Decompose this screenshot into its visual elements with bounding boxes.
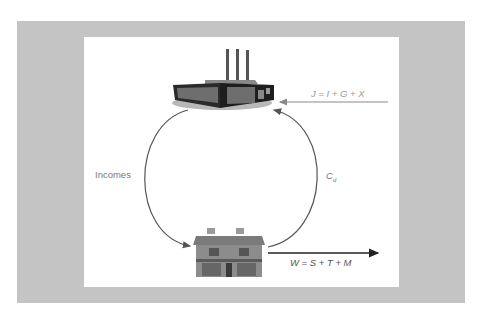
consumption-label: Cd <box>326 170 336 183</box>
incomes-arrow <box>145 110 190 246</box>
incomes-label: Incomes <box>95 169 131 180</box>
consumption-arrow <box>268 110 317 247</box>
circular-flow-diagram <box>0 0 481 316</box>
injections-label: J = I + G + X <box>311 88 365 99</box>
consumption-label-sub: d <box>333 177 336 183</box>
house-icon <box>193 228 265 277</box>
withdrawals-label: W = S + T + M <box>290 257 352 268</box>
consumption-label-main: C <box>326 170 333 181</box>
factory-icon <box>172 49 274 110</box>
